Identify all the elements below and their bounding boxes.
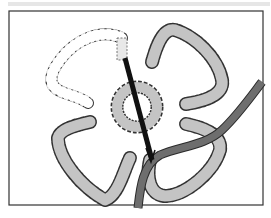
diagram-figure xyxy=(0,0,271,218)
